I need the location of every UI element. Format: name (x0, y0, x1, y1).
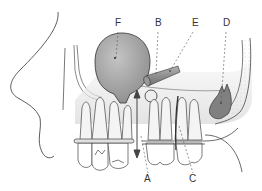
lower-crowns-right (146, 143, 202, 165)
occlusal-bar-left (74, 139, 134, 143)
leader-B (156, 32, 158, 74)
leader-E (170, 32, 193, 71)
label-d: D (223, 18, 230, 28)
dental-diagram (0, 0, 262, 191)
label-e: E (192, 18, 199, 28)
leader-A (141, 136, 148, 173)
nasal-wall-line (63, 48, 65, 110)
nose-profile (11, 12, 58, 158)
label-a: A (144, 174, 151, 184)
sinus-center-dot (114, 57, 116, 59)
label-f: F (115, 18, 121, 28)
lower-crowns-left (78, 143, 128, 170)
label-c: C (189, 174, 196, 184)
label-b: B (155, 18, 162, 28)
impacted-molar-dot (220, 102, 222, 104)
